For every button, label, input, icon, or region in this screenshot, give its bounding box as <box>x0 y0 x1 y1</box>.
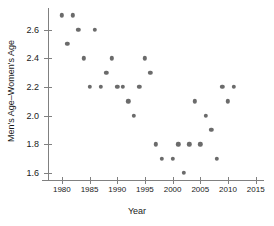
data-point <box>226 99 230 103</box>
y-tick: 2.2 <box>44 87 52 88</box>
data-point <box>104 70 108 74</box>
data-point <box>154 142 158 146</box>
x-tick-label: 2010 <box>219 186 237 194</box>
x-tick-label: 1980 <box>53 186 71 194</box>
data-point <box>220 85 224 89</box>
data-point <box>132 113 136 117</box>
x-tick-label: 1985 <box>81 186 99 194</box>
y-tick-label: 1.8 <box>26 140 39 149</box>
y-tick-label: 2.2 <box>26 82 39 91</box>
y-tick-label: 2.0 <box>26 111 39 120</box>
data-point <box>60 13 64 17</box>
y-tick: 2.0 <box>44 116 52 117</box>
x-tick: 1980 <box>62 177 63 184</box>
y-tick: 1.8 <box>44 144 52 145</box>
data-point <box>159 156 163 160</box>
y-tick-label: 1.6 <box>26 168 39 177</box>
x-tick: 1985 <box>90 177 91 184</box>
data-point <box>181 171 185 175</box>
data-point <box>126 99 130 103</box>
y-axis-title: Men's Age–Women's Age <box>6 11 16 171</box>
y-tick: 1.6 <box>44 173 52 174</box>
x-tick-label: 1990 <box>108 186 126 194</box>
plot-area: 1.61.82.02.22.42.6 198019851990199520002… <box>48 8 264 180</box>
data-point <box>143 56 147 60</box>
y-tick-label: 2.6 <box>26 25 39 34</box>
x-axis-ticks: 19801985199019952000200520102015 <box>48 180 264 200</box>
data-point <box>193 99 197 103</box>
data-point <box>87 85 91 89</box>
data-point <box>204 113 208 117</box>
data-point <box>148 70 152 74</box>
y-tick-label: 2.4 <box>26 54 39 63</box>
data-point <box>215 156 219 160</box>
data-point <box>71 13 75 17</box>
x-tick-label: 1995 <box>136 186 154 194</box>
x-tick: 1990 <box>117 177 118 184</box>
x-tick-label: 2015 <box>247 186 265 194</box>
data-point <box>121 85 125 89</box>
x-axis-title: Year <box>0 206 274 216</box>
y-tick: 2.6 <box>44 30 52 31</box>
y-axis-line <box>48 8 49 180</box>
scatter-chart-figure: 1.61.82.02.22.42.6 198019851990199520002… <box>0 0 274 226</box>
x-tick: 2005 <box>200 177 201 184</box>
data-point <box>93 27 97 31</box>
x-tick-label: 2005 <box>191 186 209 194</box>
data-point <box>109 56 113 60</box>
data-point <box>137 85 141 89</box>
data-point <box>187 142 191 146</box>
x-tick: 2000 <box>173 177 174 184</box>
data-point <box>82 56 86 60</box>
data-point <box>65 42 69 46</box>
x-tick: 2015 <box>256 177 257 184</box>
data-point <box>115 85 119 89</box>
data-point <box>76 27 80 31</box>
data-point <box>231 85 235 89</box>
x-tick: 2010 <box>228 177 229 184</box>
data-point <box>176 142 180 146</box>
data-point <box>170 156 174 160</box>
data-point <box>98 85 102 89</box>
y-tick: 2.4 <box>44 58 52 59</box>
x-tick: 1995 <box>145 177 146 184</box>
data-point <box>209 128 213 132</box>
x-tick-label: 2000 <box>164 186 182 194</box>
data-point <box>198 142 202 146</box>
